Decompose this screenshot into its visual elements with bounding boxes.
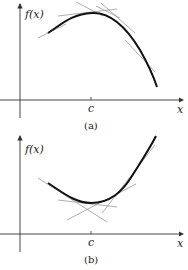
c-label: c — [88, 236, 94, 249]
tangent-lines — [38, 145, 155, 222]
concave-up-curve — [48, 136, 156, 203]
c-label: c — [88, 102, 94, 115]
x-axis-label: x — [177, 237, 184, 250]
caption-a: (a) — [84, 120, 98, 131]
y-axis-label: f(x) — [24, 143, 44, 156]
concave-down-curve — [48, 13, 157, 87]
y-axis-label: f(x) — [24, 8, 44, 21]
panel-a: f(x) c x (a) — [0, 2, 184, 131]
caption-b: (b) — [84, 254, 98, 265]
x-axis-label: x — [177, 103, 184, 116]
diagram: f(x) c x (a) f(x) c x (b) — [0, 0, 188, 270]
panel-b: f(x) c x (b) — [0, 136, 184, 265]
